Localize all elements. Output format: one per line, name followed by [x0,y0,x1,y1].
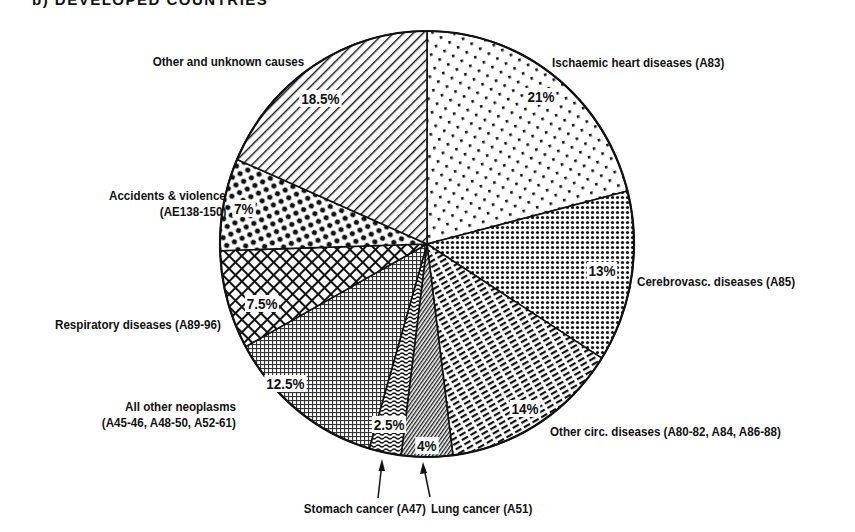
label-ischaemic: Ischaemic heart diseases (A83) [552,54,724,71]
label-neoplasms-line1: All other neoplasms [125,398,236,415]
label-lung: Lung cancer (A51) [431,500,532,517]
pie-slices [220,31,634,457]
label-neoplasms-line2: (A45-46, A48-50, A52-61) [102,414,236,431]
pct-lung: 4% [415,437,438,454]
pct-respiratory: 7.5% [245,295,279,312]
stomach-leader-arrow [378,459,385,498]
pct-neoplasms: 12.5% [264,375,306,392]
label-accidents-line2: (AE138-150) [160,203,226,220]
pct-ischaemic: 21% [526,88,557,105]
label-cerebrovasc: Cerebrovasc. diseases (A85) [637,273,795,290]
label-other-circ: Other circ. diseases (A80-82, A84, A86-8… [550,423,781,440]
label-accidents-line1: Accidents & violence [109,187,226,204]
pct-accidents: 7% [232,200,255,217]
label-stomach: Stomach cancer (A47) [304,500,426,517]
pct-stomach: 2.5% [372,416,406,433]
pct-other-unknown: 18.5% [299,90,341,107]
pct-cerebrovasc: 13% [587,262,618,279]
lung-leader-arrow [420,462,430,497]
label-respiratory: Respiratory diseases (A89-96) [55,316,221,333]
label-other-unknown: Other and unknown causes [152,53,304,70]
pct-other-circ: 14% [510,400,541,417]
